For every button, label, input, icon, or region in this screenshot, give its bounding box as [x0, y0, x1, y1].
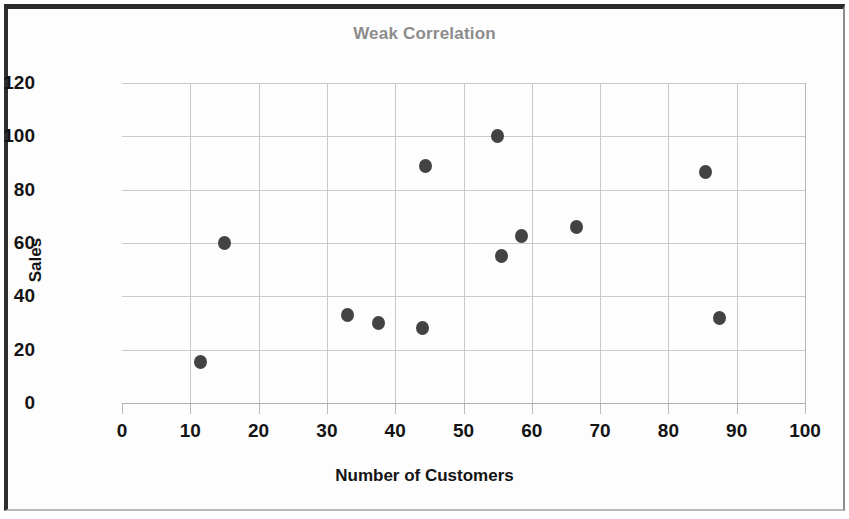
gridline-vertical	[737, 83, 738, 403]
gridline-vertical	[190, 83, 191, 403]
x-axis-tick-mark	[532, 403, 533, 414]
y-axis-tick-label: 20	[0, 339, 35, 361]
y-axis-tick-label: 40	[0, 285, 35, 307]
x-axis-tick-mark	[395, 403, 396, 414]
gridline-vertical	[464, 83, 465, 403]
gridline-horizontal	[122, 403, 805, 404]
chart-screenshot: Weak Correlation Sales Number of Custome…	[0, 0, 849, 519]
data-point	[416, 321, 429, 335]
gridline-vertical	[395, 83, 396, 403]
data-point	[570, 220, 583, 234]
data-point	[495, 249, 508, 263]
x-axis-tick-mark	[737, 403, 738, 414]
x-axis-title: Number of Customers	[0, 466, 849, 486]
gridline-vertical	[600, 83, 601, 403]
y-axis-tick-label: 80	[0, 179, 35, 201]
gridline-vertical	[259, 83, 260, 403]
data-point	[713, 311, 726, 325]
x-axis-tick-mark	[327, 403, 328, 414]
plot-area	[122, 83, 805, 403]
data-point	[491, 129, 504, 143]
y-axis-tick-label: 60	[0, 232, 35, 254]
data-point	[699, 165, 712, 179]
gridline-vertical	[805, 83, 806, 403]
data-point	[218, 236, 231, 250]
data-point	[515, 229, 528, 243]
x-axis-tick-label: 100	[765, 420, 845, 442]
gridline-vertical	[668, 83, 669, 403]
data-point	[419, 159, 432, 173]
x-axis-tick-mark	[668, 403, 669, 414]
gridline-vertical	[327, 83, 328, 403]
x-axis-tick-mark	[190, 403, 191, 414]
x-axis-tick-mark	[259, 403, 260, 414]
x-axis-tick-mark	[122, 403, 123, 414]
data-point	[341, 308, 354, 322]
y-axis-tick-label: 120	[0, 72, 35, 94]
y-axis-tick-label: 0	[0, 392, 35, 414]
gridline-vertical	[532, 83, 533, 403]
x-axis-tick-mark	[805, 403, 806, 414]
y-axis-tick-label: 100	[0, 125, 35, 147]
data-point	[194, 355, 207, 369]
x-axis-tick-mark	[464, 403, 465, 414]
x-axis-tick-mark	[600, 403, 601, 414]
data-point	[372, 316, 385, 330]
chart-title: Weak Correlation	[0, 24, 849, 44]
